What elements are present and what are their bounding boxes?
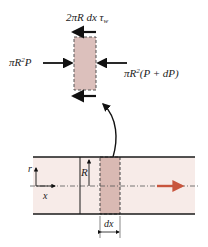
radius-label: R [80,166,88,178]
fluid-element-in-pipe [100,157,120,214]
fluid-element-freebody [74,37,96,90]
pipe-flow-diagram: 2πR dx τw πR2P πR2(P + dP) r x R dx [0,0,208,247]
callout-arrow [103,104,116,157]
pressure-left-label: πR2P [9,56,32,68]
dx-label: dx [104,218,114,229]
shear-force-label: 2πR dx τw [66,11,109,25]
x-axis-label: x [42,190,48,201]
r-axis-label: r [28,163,32,174]
pressure-right-label: πR2(P + dP) [124,67,179,80]
